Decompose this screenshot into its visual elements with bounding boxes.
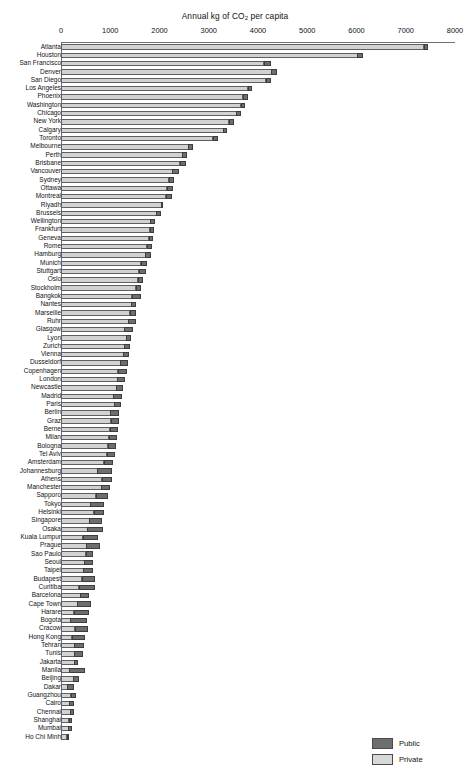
bar-row: Jakarta xyxy=(0,658,470,666)
bar-segment-private xyxy=(61,352,124,357)
bar-row: Denver xyxy=(0,68,470,76)
bar-category-label: Harare xyxy=(0,608,61,616)
bar-category-label: Curitiba xyxy=(0,583,61,591)
bar-row: New York xyxy=(0,118,470,126)
bar-stack xyxy=(61,344,131,349)
bar-row: Amsterdam xyxy=(0,459,470,467)
bar-category-label: Ruhr xyxy=(0,317,61,325)
bar-segment-private xyxy=(61,94,243,99)
legend-swatch-private xyxy=(372,754,393,765)
bar-row: Perth xyxy=(0,151,470,159)
bar-segment-public xyxy=(80,593,89,598)
bar-segment-public xyxy=(126,335,131,340)
bar-stack xyxy=(61,610,90,615)
bar-category-label: Amsterdam xyxy=(0,458,61,466)
bar-stack xyxy=(61,227,155,232)
bar-segment-public xyxy=(71,693,76,698)
bar-stack xyxy=(61,668,85,673)
chart-title-prefix: Annual kg of CO xyxy=(182,11,245,21)
bar-segment-public xyxy=(90,502,104,507)
bar-segment-private xyxy=(61,443,108,448)
bar-row: Singapore xyxy=(0,517,470,525)
bar-segment-private xyxy=(61,410,111,415)
bar-segment-private xyxy=(61,651,75,656)
bar-segment-public xyxy=(424,44,428,49)
bar-row: Ottawa xyxy=(0,184,470,192)
bar-segment-private xyxy=(61,111,237,116)
bar-row: Manila xyxy=(0,666,470,674)
bar-category-label: Johannesburg xyxy=(0,467,61,475)
bar-segment-public xyxy=(130,310,136,315)
bar-row: Tokyo xyxy=(0,500,470,508)
bar-segment-private xyxy=(61,161,180,166)
bar-segment-public xyxy=(243,94,248,99)
bar-segment-public xyxy=(97,468,112,473)
x-axis-tick-label: 2000 xyxy=(151,26,167,35)
bar-row: Berlin xyxy=(0,409,470,417)
bar-category-label: Cracow xyxy=(0,624,61,632)
x-axis-tick-label: 4000 xyxy=(250,26,266,35)
bar-stack xyxy=(61,493,109,498)
x-axis-tick-label: 1000 xyxy=(102,26,118,35)
bar-segment-private xyxy=(61,394,114,399)
bar-segment-private xyxy=(61,186,167,191)
bar-stack xyxy=(61,335,132,340)
bar-segment-public xyxy=(102,477,112,482)
bar-segment-public xyxy=(110,410,119,415)
bar-stack xyxy=(61,269,147,274)
bar-segment-public xyxy=(241,103,245,108)
bar-stack xyxy=(61,460,114,465)
bar-segment-public xyxy=(118,369,127,374)
bar-segment-public xyxy=(236,111,241,116)
bar-category-label: Stuttgart xyxy=(0,267,61,275)
bar-stack xyxy=(61,576,95,581)
bar-category-label: Bogota xyxy=(0,616,61,624)
bar-row: Houston xyxy=(0,51,470,59)
bar-category-label: Wellington xyxy=(0,217,61,225)
bar-segment-public xyxy=(108,443,116,448)
bar-segment-private xyxy=(61,676,74,681)
bar-category-label: Oslo xyxy=(0,275,61,283)
bar-row: Melbourne xyxy=(0,143,470,151)
bar-segment-public xyxy=(182,152,187,157)
bar-segment-private xyxy=(61,335,127,340)
bar-category-label: San Francisco xyxy=(0,59,61,67)
bar-segment-private xyxy=(61,468,98,473)
bar-segment-private xyxy=(61,551,86,556)
bar-segment-public xyxy=(74,643,84,648)
bar-row: Brisbane xyxy=(0,159,470,167)
bar-row: Athens xyxy=(0,475,470,483)
bar-segment-private xyxy=(61,194,166,199)
bar-row: Tehran xyxy=(0,642,470,650)
bar-category-label: Berlin xyxy=(0,408,61,416)
bar-row: Tel Aviv xyxy=(0,450,470,458)
bar-stack xyxy=(61,468,113,473)
x-axis-tick-label: 6000 xyxy=(348,26,364,35)
bar-row: Curitiba xyxy=(0,583,470,591)
bar-category-label: Guangzhou xyxy=(0,691,61,699)
bar-stack xyxy=(61,294,141,299)
bar-segment-private xyxy=(61,427,110,432)
bar-row: Sydney xyxy=(0,176,470,184)
bar-category-label: Melbourne xyxy=(0,142,61,150)
bar-row: Bangkok xyxy=(0,292,470,300)
bar-row: Shanghai xyxy=(0,716,470,724)
bar-stack xyxy=(61,510,105,515)
bar-stack xyxy=(61,418,120,423)
bar-category-label: Prague xyxy=(0,541,61,549)
bar-row: Washington xyxy=(0,101,470,109)
bar-segment-private xyxy=(61,202,162,207)
bar-segment-private xyxy=(61,69,272,74)
bar-row: Lyon xyxy=(0,334,470,342)
bar-stack xyxy=(61,385,124,390)
bar-category-label: Tunis xyxy=(0,649,61,657)
bar-category-label: Chennai xyxy=(0,708,61,716)
bar-segment-public xyxy=(87,527,103,532)
bar-row: Mumbai xyxy=(0,725,470,733)
bar-stack xyxy=(61,94,248,99)
legend-swatch-public xyxy=(372,738,393,749)
bar-row: Cape Town xyxy=(0,600,470,608)
bar-segment-public xyxy=(229,119,234,124)
bar-segment-private xyxy=(61,502,91,507)
bar-segment-private xyxy=(61,626,75,631)
